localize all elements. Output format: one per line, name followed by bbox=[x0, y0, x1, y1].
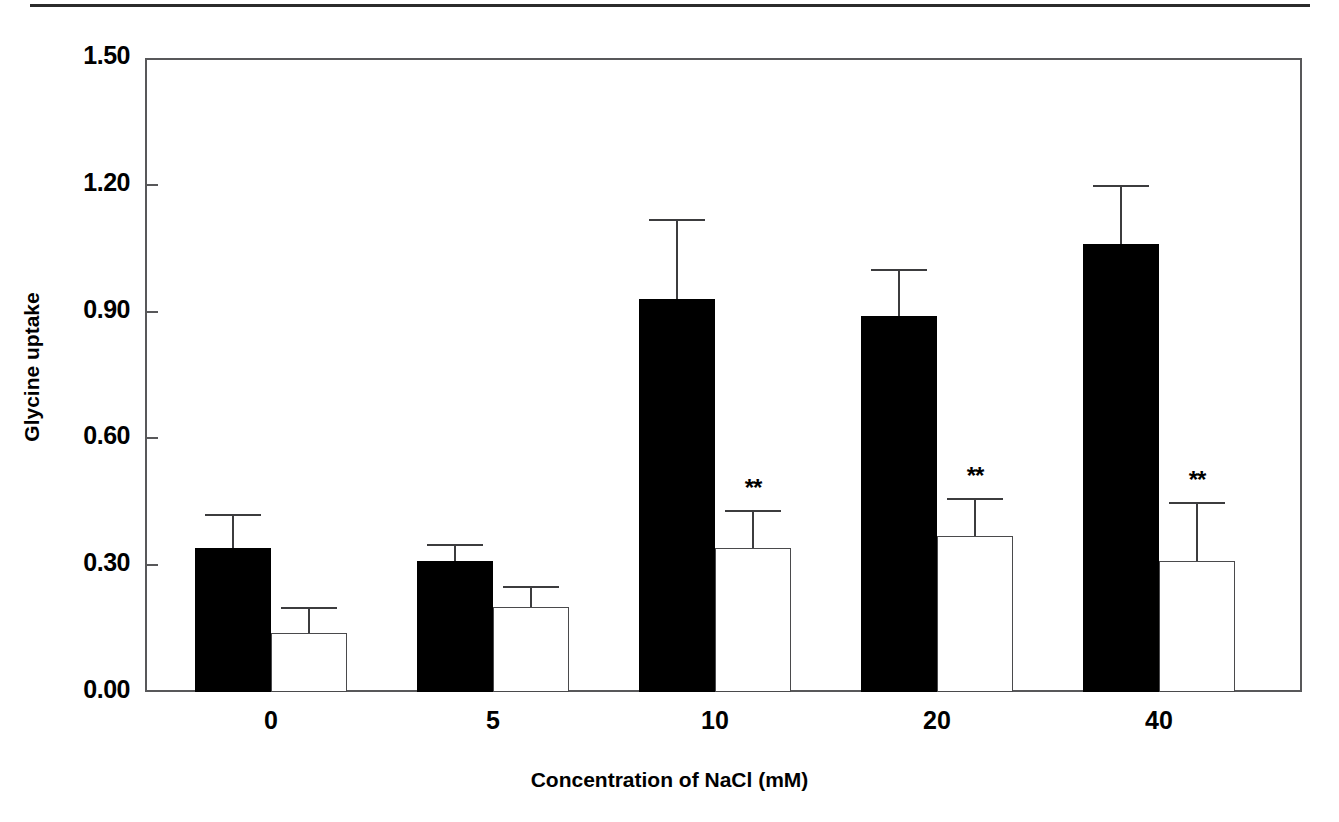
x-axis-tick-label: 40 bbox=[1099, 706, 1219, 735]
y-axis-tick bbox=[145, 184, 158, 186]
bar-20-filled bbox=[861, 316, 937, 692]
error-bar-stem bbox=[676, 219, 678, 299]
error-bar-cap bbox=[281, 607, 337, 609]
error-bar-cap bbox=[871, 269, 927, 271]
y-axis-tick bbox=[145, 564, 158, 566]
significance-marker: ** bbox=[945, 464, 1005, 488]
figure-canvas: Glycine uptake 0.000.300.600.901.201.50 … bbox=[0, 0, 1339, 822]
error-bar-cap bbox=[427, 544, 483, 546]
error-bar-cap bbox=[205, 514, 261, 516]
header-rule bbox=[30, 4, 1310, 7]
bar-20-open bbox=[937, 536, 1013, 692]
error-bar-stem bbox=[1196, 502, 1198, 561]
bar-5-open bbox=[493, 607, 569, 692]
y-axis-tick-label: 1.50 bbox=[35, 41, 130, 70]
bar-0-open bbox=[271, 633, 347, 692]
error-bar-stem bbox=[752, 510, 754, 548]
x-axis-tick-label: 5 bbox=[433, 706, 553, 735]
x-axis-title: Concentration of NaCl (mM) bbox=[0, 768, 1339, 792]
error-bar-stem bbox=[232, 514, 234, 548]
error-bar-cap bbox=[649, 219, 705, 221]
error-bar-stem bbox=[898, 269, 900, 315]
error-bar-stem bbox=[454, 544, 456, 561]
y-axis-tick bbox=[145, 437, 158, 439]
bar-40-filled bbox=[1083, 244, 1159, 692]
significance-marker: ** bbox=[1167, 468, 1227, 492]
error-bar-stem bbox=[530, 586, 532, 607]
y-axis-tick-label: 1.20 bbox=[35, 168, 130, 197]
y-axis-tick-label: 0.30 bbox=[35, 548, 130, 577]
bar-10-filled bbox=[639, 299, 715, 692]
y-axis-tick-label: 0.60 bbox=[35, 421, 130, 450]
error-bar-cap bbox=[1093, 185, 1149, 187]
x-axis-tick-label: 0 bbox=[211, 706, 331, 735]
error-bar-cap bbox=[503, 586, 559, 588]
x-axis-tick-label: 20 bbox=[877, 706, 997, 735]
bar-5-filled bbox=[417, 561, 493, 692]
error-bar-stem bbox=[308, 607, 310, 632]
error-bar-cap bbox=[1169, 502, 1225, 504]
bar-40-open bbox=[1159, 561, 1235, 692]
y-axis-tick bbox=[145, 311, 158, 313]
error-bar-cap bbox=[947, 498, 1003, 500]
bar-10-open bbox=[715, 548, 791, 692]
bar-0-filled bbox=[195, 548, 271, 692]
y-axis-tick-label: 0.00 bbox=[35, 675, 130, 704]
significance-marker: ** bbox=[723, 476, 783, 500]
error-bar-stem bbox=[974, 498, 976, 536]
x-axis-tick-label: 10 bbox=[655, 706, 775, 735]
error-bar-cap bbox=[725, 510, 781, 512]
error-bar-stem bbox=[1120, 185, 1122, 244]
y-axis-tick-label: 0.90 bbox=[35, 295, 130, 324]
